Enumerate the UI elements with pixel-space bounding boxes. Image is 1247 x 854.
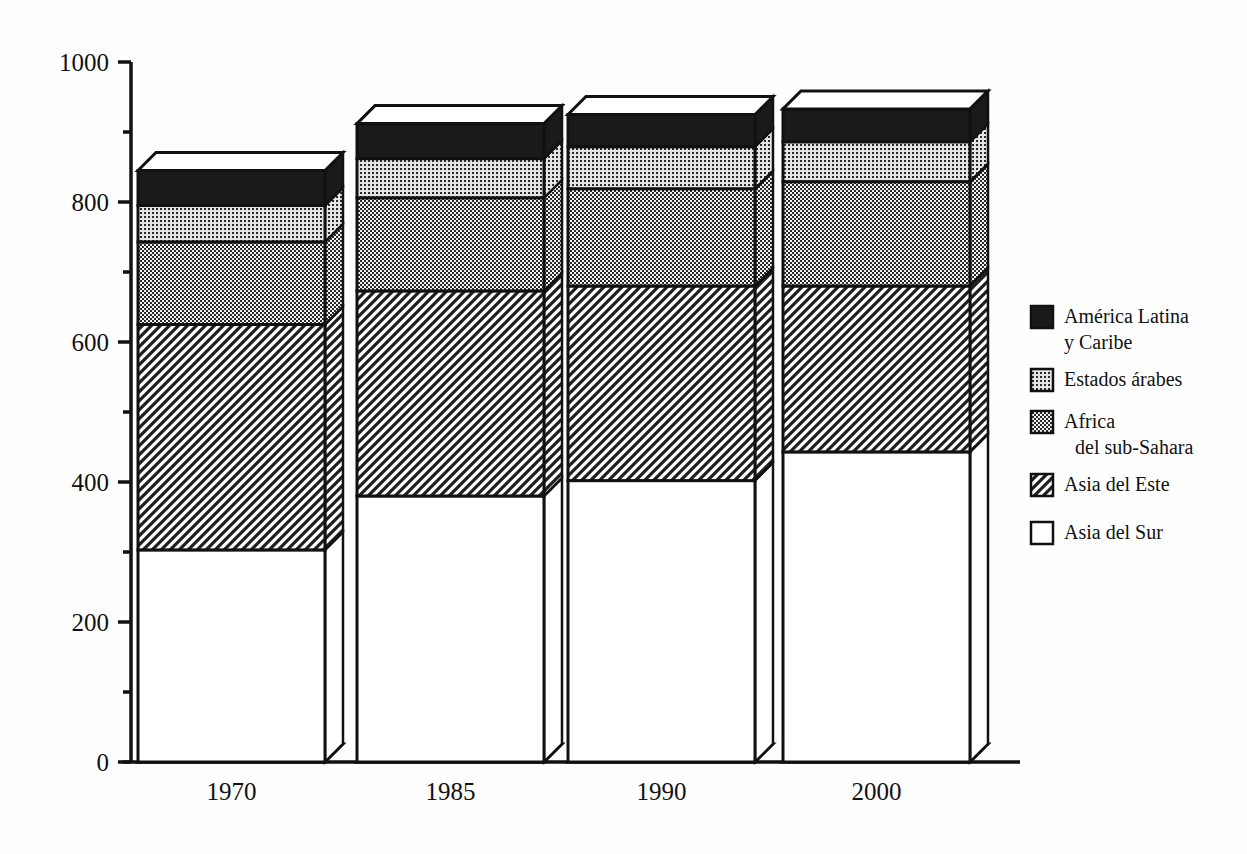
legend-item[interactable]: Asia del Sur (1031, 521, 1163, 544)
legend-label-line2: del sub-Sahara (1075, 436, 1193, 458)
x-tick-label: 2000 (852, 778, 902, 805)
bar-segment (357, 478, 562, 762)
bar-segment (783, 268, 988, 452)
chart-container: 02004006008001000 1970198519902000 Améri… (0, 0, 1247, 854)
bar-column (568, 97, 773, 763)
bar-segment-side-face (755, 171, 773, 286)
x-tick-label: 1985 (426, 778, 476, 805)
bar-segment (357, 273, 562, 496)
bar-segment-front-face (357, 291, 544, 496)
bar-column (138, 153, 343, 763)
bar-top-face (357, 106, 562, 124)
y-axis: 02004006008001000 (59, 49, 131, 776)
bar-segment-front-face (568, 189, 755, 286)
bar-segment-side-face (970, 164, 988, 286)
legend-swatch (1031, 474, 1053, 496)
bar-segment-front-face (783, 182, 970, 286)
bar-segment-side-face (544, 273, 562, 496)
y-axis-tick-label: 200 (72, 609, 110, 636)
bar-column (783, 91, 988, 762)
bar-segment-front-face (357, 198, 544, 291)
y-axis-tick-label: 800 (72, 189, 110, 216)
bar-segment-front-face (357, 159, 544, 198)
bar-segment (138, 532, 343, 762)
legend-item[interactable]: Estados árabes (1031, 368, 1183, 391)
legend-swatch (1031, 522, 1053, 544)
bar-segment-front-face (138, 206, 325, 242)
y-axis-tick-label: 1000 (59, 49, 109, 76)
chart-legend: América Latinay CaribeEstados árabesAfri… (1031, 305, 1193, 544)
y-axis-tick-label: 400 (72, 469, 110, 496)
bar-segment-front-face (568, 481, 755, 762)
bar-segment-front-face (568, 147, 755, 189)
bars-group (138, 91, 988, 762)
y-axis-tick-label: 0 (97, 749, 110, 776)
bar-segment-front-face (783, 109, 970, 142)
x-tick-labels: 1970198519902000 (207, 778, 902, 805)
bar-top-face (568, 97, 773, 115)
bar-segment-front-face (783, 286, 970, 452)
bar-segment (138, 307, 343, 550)
legend-label: Estados árabes (1064, 368, 1183, 390)
legend-label: Asia del Este (1064, 473, 1170, 495)
bar-segment-side-face (970, 434, 988, 762)
stacked-bar-chart: 02004006008001000 1970198519902000 Améri… (0, 0, 1247, 854)
legend-item[interactable]: Africadel sub-Sahara (1031, 410, 1193, 458)
bar-segment-front-face (783, 452, 970, 762)
legend-label-line2: y Caribe (1064, 331, 1132, 354)
bar-segment-side-face (755, 268, 773, 481)
legend-item[interactable]: América Latinay Caribe (1031, 305, 1189, 354)
legend-item[interactable]: Asia del Este (1031, 473, 1170, 496)
legend-swatch (1031, 306, 1053, 328)
bar-segment-front-face (138, 550, 325, 762)
bar-segment (568, 268, 773, 481)
bar-segment-front-face (138, 242, 325, 325)
bar-column (357, 106, 562, 762)
bar-top-face (138, 153, 343, 171)
legend-swatch (1031, 369, 1053, 391)
bar-segment (783, 434, 988, 762)
legend-label: Africa (1064, 410, 1115, 432)
x-tick-label: 1970 (207, 778, 257, 805)
bar-segment-side-face (544, 478, 562, 762)
bar-segment-side-face (325, 532, 343, 762)
legend-swatch (1031, 411, 1053, 433)
bar-segment-front-face (357, 496, 544, 762)
legend-label: América Latina (1064, 305, 1189, 327)
bar-segment (568, 463, 773, 762)
bar-segment-front-face (138, 171, 325, 206)
bar-segment-side-face (325, 307, 343, 550)
bar-segment-front-face (568, 115, 755, 147)
bar-segment-side-face (755, 463, 773, 762)
x-tick-label: 1990 (637, 778, 687, 805)
bar-segment-front-face (568, 286, 755, 481)
legend-label: Asia del Sur (1064, 521, 1163, 543)
y-axis-tick-label: 600 (72, 329, 110, 356)
bar-segment-side-face (970, 268, 988, 452)
bar-segment-front-face (138, 325, 325, 550)
bar-segment-front-face (357, 124, 544, 159)
bar-segment-front-face (783, 142, 970, 182)
bar-top-face (783, 91, 988, 109)
